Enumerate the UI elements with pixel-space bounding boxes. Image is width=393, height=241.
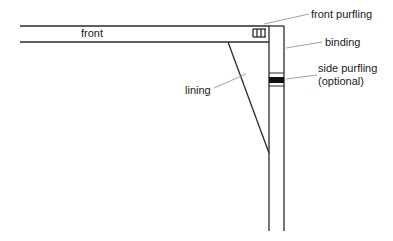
- label-lining: lining: [185, 84, 211, 96]
- label-side-purfling: side purfling: [318, 62, 377, 74]
- label-front: front: [81, 27, 103, 39]
- lining-leader: [214, 74, 246, 88]
- side-purfling-leader: [286, 75, 317, 79]
- lining-diagonal: [228, 42, 269, 153]
- label-side-purfling-optional: (optional): [318, 75, 364, 87]
- binding-leader: [286, 42, 322, 48]
- label-binding: binding: [325, 36, 360, 48]
- side-purfling-band: [269, 77, 284, 83]
- label-front-purfling: front purfling: [311, 8, 372, 20]
- front-purfling-leader: [264, 14, 309, 24]
- front-purfling-strips: [253, 29, 266, 37]
